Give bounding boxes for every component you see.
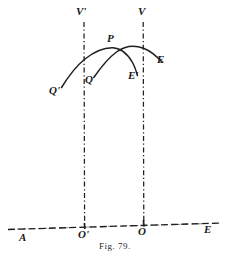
vertical-axis-right-line bbox=[143, 22, 144, 226]
label-apex-p: P bbox=[107, 33, 114, 44]
label-origin-left: O' bbox=[78, 229, 89, 240]
label-origin-right: O bbox=[138, 226, 146, 237]
label-end-e: E bbox=[157, 54, 164, 65]
label-start-q: Q bbox=[85, 74, 93, 85]
label-start-q-prime: Q' bbox=[49, 85, 60, 96]
vertical-axis-left-line bbox=[84, 22, 85, 228]
label-vertex-left: V' bbox=[76, 6, 86, 17]
label-vertex-right: V bbox=[138, 6, 145, 17]
arc-q-prime-to-e-prime bbox=[62, 48, 138, 88]
label-axis-right-e: E bbox=[204, 224, 211, 235]
figure-drawing bbox=[0, 0, 230, 259]
figure-caption: Fig. 79. bbox=[0, 241, 230, 251]
figure-page: V' V P Q' Q E' E O' O A E Fig. 79. bbox=[0, 0, 230, 259]
label-end-e-prime: E' bbox=[128, 70, 138, 81]
